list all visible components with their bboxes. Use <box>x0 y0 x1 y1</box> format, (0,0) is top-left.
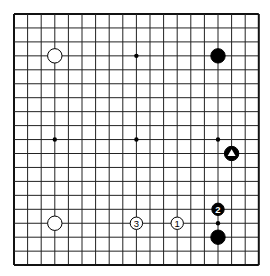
white-stone <box>48 49 62 63</box>
black-stone <box>211 230 225 244</box>
star-point <box>53 137 57 141</box>
star-point <box>134 54 138 58</box>
black-stone <box>224 146 238 160</box>
white-stone-1: 1 <box>171 217 183 229</box>
go-board: 312 <box>0 0 270 276</box>
star-point <box>216 137 220 141</box>
white-stone <box>48 216 62 230</box>
move-number: 3 <box>134 218 139 229</box>
stones-layer: 312 <box>48 49 239 245</box>
white-stone-3: 3 <box>130 217 142 229</box>
move-number: 1 <box>175 218 180 229</box>
black-stone-2: 2 <box>212 203 224 215</box>
star-point <box>134 137 138 141</box>
move-number: 2 <box>215 204 220 215</box>
black-stone <box>211 49 225 63</box>
star-point <box>216 221 220 225</box>
